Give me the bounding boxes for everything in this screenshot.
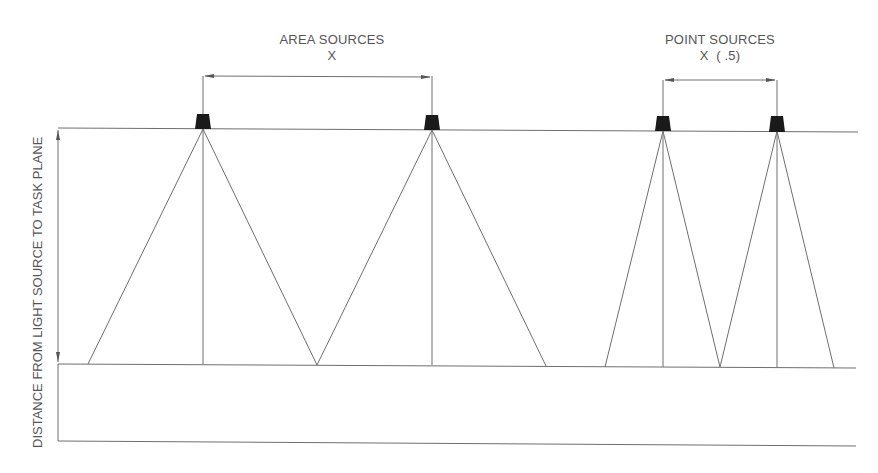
area-dim-arrow-right: [421, 75, 431, 79]
point-sources-title: POINT SOURCES: [650, 32, 790, 48]
point-sources-spacing: X ( .5): [650, 48, 790, 64]
task-plane-line: [58, 364, 856, 368]
area-fixture-1-icon: [195, 114, 211, 129]
lighting-spacing-diagram: [0, 0, 878, 473]
area-source-1-cone: [88, 129, 317, 365]
point-fixture-2-icon: [769, 116, 785, 132]
area-sources-label: AREA SOURCES X: [257, 32, 407, 64]
point-sources-label: POINT SOURCES X ( .5): [650, 32, 790, 64]
area-source-2-cone: [317, 130, 546, 366]
source-plane-line: [58, 128, 858, 132]
point-fixture-1-icon: [655, 116, 671, 131]
floor-line: [58, 441, 856, 446]
distance-label: DISTANCE FROM LIGHT SOURCE TO TASK PLANE: [30, 137, 45, 448]
area-dim-line: [205, 76, 430, 77]
area-sources-spacing: X: [257, 48, 407, 64]
area-fixture-2-icon: [424, 115, 440, 130]
area-dim-arrow-left: [204, 74, 214, 78]
distance-arrow-bottom: [56, 352, 60, 362]
point-source-2-cone: [720, 131, 834, 368]
point-dim-arrow-right: [766, 78, 776, 82]
distance-arrow-top: [56, 130, 60, 140]
point-dim-arrow-left: [664, 78, 674, 82]
area-sources-title: AREA SOURCES: [257, 32, 407, 48]
point-source-1-cone: [605, 131, 720, 367]
